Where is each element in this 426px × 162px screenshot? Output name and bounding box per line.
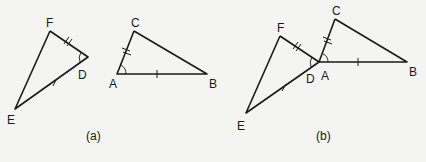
label-a-b: A — [321, 69, 329, 83]
label-e-b: E — [237, 119, 245, 133]
label-a-a: A — [109, 77, 117, 91]
figure-b-triangle-abc — [319, 19, 407, 66]
figure-a-triangle-abc — [117, 31, 207, 78]
label-b-a: B — [209, 77, 217, 91]
label-f-a: F — [46, 16, 53, 30]
label-d-b: D — [306, 72, 315, 86]
label-c-b: C — [332, 4, 341, 18]
congruent-triangles-diagram: F D E C A B (a) F D E C A B (b) — [0, 0, 426, 162]
caption-a: (a) — [86, 129, 101, 143]
label-b-b: B — [409, 65, 417, 79]
caption-b: (b) — [316, 129, 331, 143]
label-f-b: F — [277, 21, 284, 35]
label-e-a: E — [7, 113, 15, 127]
label-c-a: C — [131, 16, 140, 30]
label-d-a: D — [78, 68, 87, 82]
